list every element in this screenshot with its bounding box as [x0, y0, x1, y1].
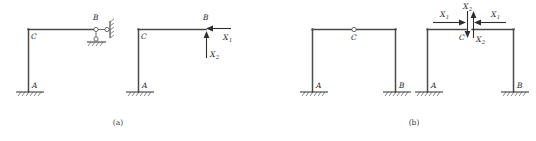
force-x2-left-subscript: 2 [468, 6, 472, 12]
force-x1-left-subscript: 1 [446, 14, 449, 20]
joint-label-a-hinged: A [315, 81, 322, 90]
force-x1-right-arrow: X 1 [474, 10, 506, 25]
joint-label-a-released: A [141, 81, 148, 90]
force-x2-subscript: 2 [215, 54, 219, 60]
force-x1-left-label: X [439, 10, 446, 19]
force-x2-label: X [209, 50, 216, 59]
force-x2-arrow: X 2 [204, 31, 220, 60]
fixed-support-a [16, 92, 44, 96]
force-x1-right-label: X [490, 10, 497, 19]
force-x1-subscript: 1 [229, 37, 232, 43]
joint-label-a-cut: A [430, 81, 437, 90]
caption-b: (b) [409, 118, 420, 127]
part-b-released-structure: C A B X 1 [415, 2, 529, 96]
joint-label-b-hinged: B [398, 81, 405, 90]
vertical-roller-pin [94, 37, 98, 41]
part-b-original-structure: C A B [300, 27, 411, 96]
fixed-support-b-portal [383, 92, 411, 96]
fixed-support-a-cut [415, 92, 443, 96]
force-x2-right-label: X [475, 35, 482, 44]
diagram-canvas: C B A [0, 0, 536, 141]
joint-label-c-released: C [141, 32, 147, 41]
joint-label-b: B [92, 13, 99, 22]
horizontal-roller-pin [105, 27, 109, 31]
force-x1-arrow: X 1 [206, 26, 232, 43]
force-x2-right-arrow: X 2 [471, 11, 486, 45]
structural-diagram-figure: C B A [0, 0, 536, 141]
pin-at-b [94, 27, 98, 31]
joint-label-b-cut: B [516, 81, 523, 90]
joint-label-b-released: B [202, 13, 209, 22]
force-x2-right-subscript: 2 [481, 39, 485, 45]
joint-label-c: C [31, 32, 37, 41]
force-x1-left-arrow: X 1 [433, 10, 466, 25]
fixed-support-a-released [126, 92, 154, 96]
part-a-released-structure: C B A X 1 X 2 [126, 13, 232, 96]
joint-label-a: A [31, 81, 38, 90]
joint-label-c-cut: C [459, 33, 465, 42]
force-x1-label: X [222, 33, 229, 42]
fixed-support-a-portal [300, 92, 328, 96]
part-a-original-structure: C B A [16, 13, 114, 96]
force-x2-left-label: X [462, 2, 469, 11]
caption-a: (a) [113, 118, 123, 127]
internal-hinge-c [352, 27, 356, 31]
link-support-b-assembly [87, 19, 114, 46]
fixed-support-b-cut [501, 92, 529, 96]
joint-label-c-hinged: C [351, 33, 357, 42]
force-x1-right-subscript: 1 [497, 14, 500, 20]
